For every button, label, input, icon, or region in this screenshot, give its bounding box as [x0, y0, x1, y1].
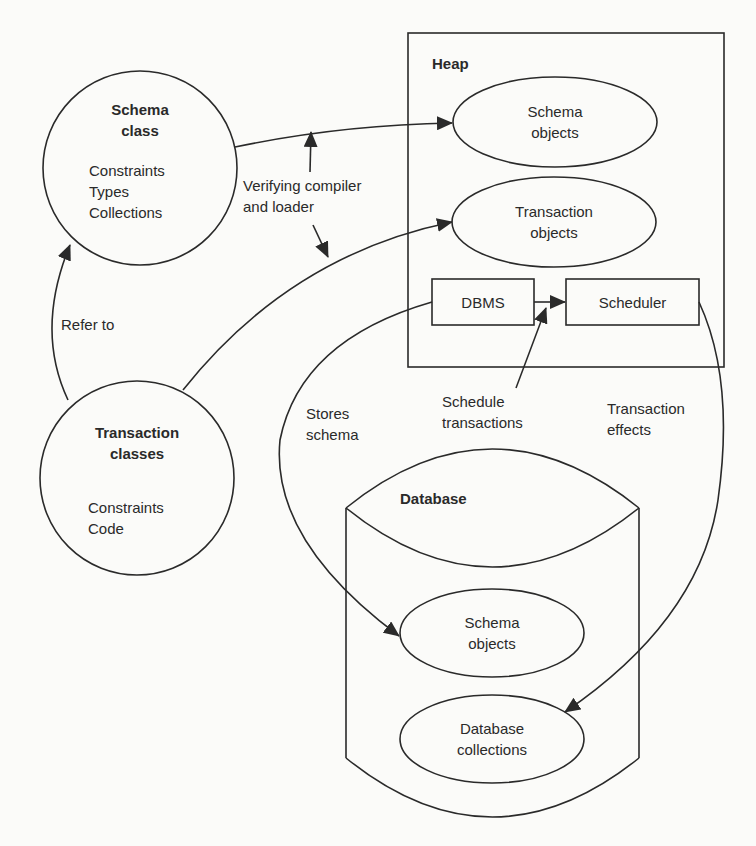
heap-schema-objects-label: Schema objects	[495, 101, 615, 143]
db-collections-line2: collections	[432, 739, 552, 760]
database-title: Database	[400, 488, 467, 509]
verifying-line1: Verifying compiler	[243, 175, 361, 196]
refer-to-label: Refer to	[61, 314, 114, 335]
schema-class-title-line1: Schema	[100, 99, 180, 120]
pointer-schedule-transactions	[516, 308, 546, 388]
schedule-transactions-label: Schedule transactions	[442, 391, 523, 433]
transaction-effects-line1: Transaction	[607, 398, 685, 419]
schema-class-title: Schema class	[100, 99, 180, 141]
db-collections-label: Database collections	[432, 718, 552, 760]
heap-transaction-objects-line2: objects	[494, 222, 614, 243]
scheduler-label: Scheduler	[566, 292, 699, 313]
dbms-label: DBMS	[432, 292, 534, 313]
schedule-transactions-line2: transactions	[442, 412, 523, 433]
transaction-classes-items: Constraints Code	[88, 497, 164, 539]
heap-transaction-objects-label: Transaction objects	[494, 201, 614, 243]
edge-stores-schema	[279, 302, 432, 636]
edge-schema-to-heap	[235, 123, 452, 147]
heap-schema-objects-line1: Schema	[495, 101, 615, 122]
schema-class-item: Constraints	[89, 160, 165, 181]
db-schema-objects-label: Schema objects	[432, 612, 552, 654]
stores-schema-label: Stores schema	[306, 403, 359, 445]
db-schema-objects-line2: objects	[432, 633, 552, 654]
transaction-classes-item: Constraints	[88, 497, 164, 518]
verifying-compiler-label: Verifying compiler and loader	[243, 175, 361, 217]
transaction-classes-title: Transaction classes	[82, 422, 192, 464]
schema-class-item: Collections	[89, 202, 165, 223]
transaction-classes-node	[40, 381, 234, 575]
transaction-classes-title-line1: Transaction	[82, 422, 192, 443]
pointer-verifying-down	[313, 225, 328, 257]
edge-transaction-effects	[565, 302, 723, 712]
stores-schema-line2: schema	[306, 424, 359, 445]
schema-class-item: Types	[89, 181, 165, 202]
schema-class-items: Constraints Types Collections	[89, 160, 165, 223]
stores-schema-line1: Stores	[306, 403, 359, 424]
heap-schema-objects-line2: objects	[495, 122, 615, 143]
verifying-line2: and loader	[243, 196, 361, 217]
heap-title: Heap	[432, 53, 469, 74]
heap-transaction-objects-line1: Transaction	[494, 201, 614, 222]
schema-class-title-line2: class	[100, 120, 180, 141]
transaction-classes-title-line2: classes	[82, 443, 192, 464]
db-schema-objects-line1: Schema	[432, 612, 552, 633]
transaction-effects-line2: effects	[607, 419, 685, 440]
pointer-verifying-up	[310, 132, 311, 172]
transaction-effects-label: Transaction effects	[607, 398, 685, 440]
transaction-classes-item: Code	[88, 518, 164, 539]
db-collections-line1: Database	[432, 718, 552, 739]
schedule-transactions-line1: Schedule	[442, 391, 523, 412]
